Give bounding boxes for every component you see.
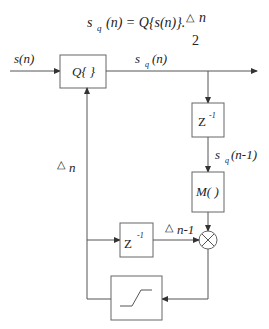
- step-label: △ n: [57, 158, 76, 175]
- eq-denominator: 2: [192, 33, 199, 48]
- svg-text:q: q: [225, 156, 229, 165]
- eq-delta-icon: △: [186, 11, 195, 23]
- eq-rhs: (n) = Q{s(n)}.: [106, 15, 185, 31]
- eq-s: s: [87, 15, 93, 30]
- svg-text:△: △: [165, 221, 174, 233]
- svg-text:s: s: [215, 147, 220, 162]
- svg-text:(n): (n): [152, 51, 167, 66]
- equation: s q (n) = Q{s(n)}. △ n 2: [87, 10, 206, 48]
- eq-sub: q: [97, 23, 102, 33]
- svg-text:n-1: n-1: [177, 222, 194, 237]
- mult-to-limiter-arrow: [162, 249, 208, 299]
- eq-num-n: n: [199, 10, 206, 25]
- delay-block-top: [192, 103, 224, 137]
- delayed-step-label: △ n-1: [165, 221, 194, 237]
- svg-text:△: △: [57, 158, 66, 170]
- output-label: s q (n): [135, 51, 167, 69]
- svg-text:s: s: [135, 51, 140, 66]
- svg-text:q: q: [145, 60, 149, 69]
- delay-bottom-z: Z: [124, 236, 132, 251]
- delay-bottom-exp: -1: [137, 231, 144, 240]
- mapper-label: M( ): [195, 184, 219, 199]
- svg-text:n: n: [69, 160, 76, 175]
- delay-top-z: Z: [198, 114, 206, 129]
- quantizer-label: Q{ }: [72, 64, 96, 79]
- adaptive-quantizer-diagram: s q (n) = Q{s(n)}. △ n 2 s(n) Q{ } s q (…: [0, 0, 269, 329]
- svg-text:(n-1): (n-1): [231, 147, 257, 162]
- delayed-label: s q (n-1): [215, 147, 257, 165]
- input-label: s(n): [14, 51, 34, 66]
- delay-top-exp: -1: [209, 111, 216, 120]
